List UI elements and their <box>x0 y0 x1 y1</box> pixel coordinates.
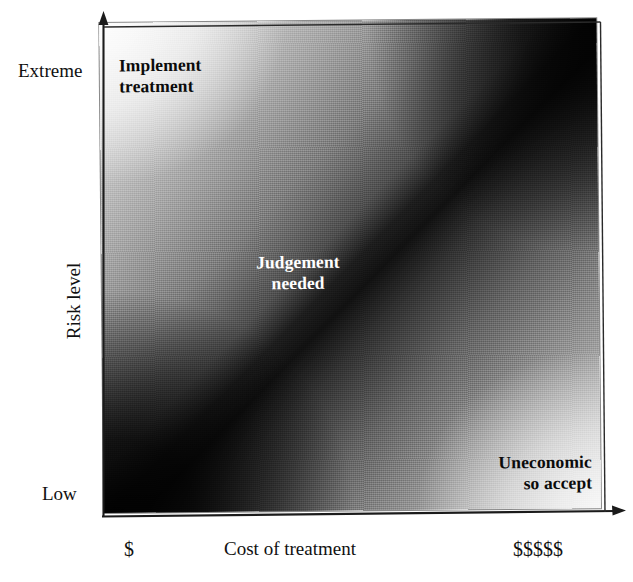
y-axis-arrowhead <box>99 11 109 25</box>
x-axis-tick-high-cost: $$$$$ <box>513 538 563 561</box>
risk-cost-matrix-figure: Implement treatment Judgement needed Une… <box>0 0 633 582</box>
y-axis-title: Risk level <box>63 221 85 381</box>
plot-top-border <box>104 22 601 27</box>
x-axis <box>102 505 626 516</box>
plot-right-border <box>601 22 606 512</box>
y-axis-tick-extreme: Extreme <box>18 60 82 82</box>
x-axis-title: Cost of treatment <box>224 538 356 560</box>
y-axis-tick-low: Low <box>42 483 77 505</box>
x-axis-arrowhead <box>612 505 626 515</box>
x-axis-tick-low-cost: $ <box>124 538 134 561</box>
y-axis <box>99 11 109 516</box>
axes-group <box>0 0 633 582</box>
